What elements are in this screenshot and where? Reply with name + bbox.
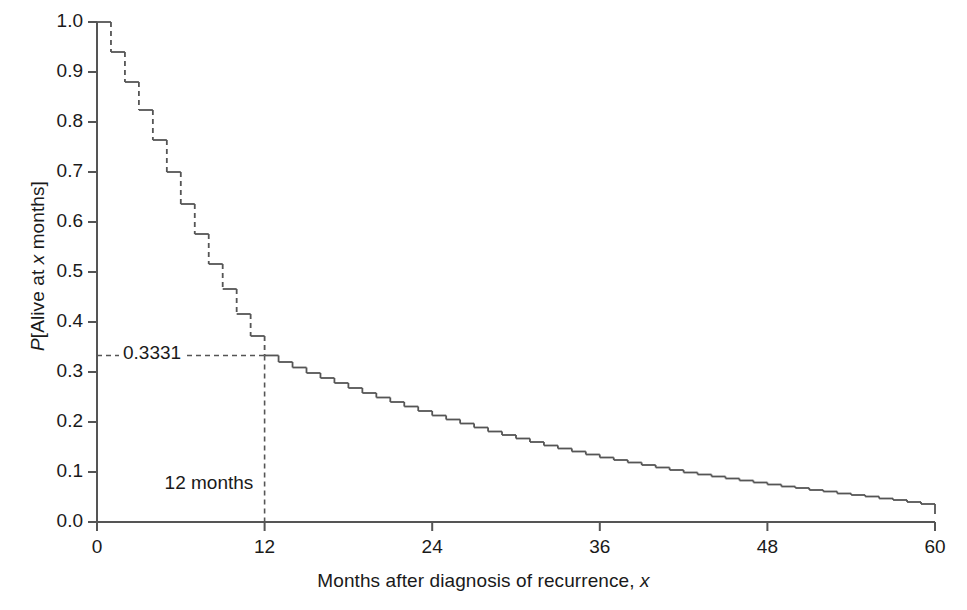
y-tick-label: 0.6 [0,210,83,232]
y-tick-label: 0.2 [0,410,83,432]
x-axis-title-text: Months after diagnosis of recurrence, [317,570,640,591]
survival-step-curve [97,22,935,514]
y-tick-label: 0.0 [0,510,83,532]
y-tick-label: 0.3 [0,360,83,382]
x-axis-title-x: x [640,570,650,591]
y-tick-label: 0.9 [0,60,83,82]
y-tick-label: 0.7 [0,160,83,182]
x-tick-label: 48 [727,536,807,558]
x-tick-label: 0 [57,536,137,558]
x-tick-label: 36 [560,536,640,558]
x-tick-label: 60 [895,536,967,558]
annotation-leader-lines [97,355,265,522]
x-axis-title: Months after diagnosis of recurrence, x [0,570,967,592]
y-tick-label: 0.1 [0,460,83,482]
x-tick-label: 24 [392,536,472,558]
y-axis-ticks [88,22,97,522]
annotation-month-label: 12 months [161,472,258,494]
x-axis-ticks [97,522,935,531]
survival-curve-figure: P[Alive at x months] Months after diagno… [0,0,967,610]
y-tick-label: 0.8 [0,110,83,132]
y-axis-title-p: P [27,338,48,351]
x-tick-label: 12 [225,536,305,558]
annotation-survival-value: 0.3331 [119,342,185,364]
axes [88,22,935,531]
y-tick-label: 1.0 [0,10,83,32]
y-tick-label: 0.4 [0,310,83,332]
y-tick-label: 0.5 [0,260,83,282]
chart-canvas [0,0,967,610]
